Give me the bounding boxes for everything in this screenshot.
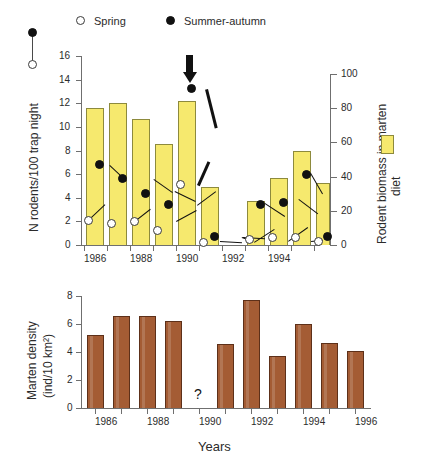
datapoint-spring [176, 180, 185, 189]
axis-ticklabel-x-bottom: 1996 [355, 417, 377, 427]
bar-marten-density [139, 316, 156, 408]
axis-tick [147, 409, 148, 414]
datapoint-spring [291, 233, 300, 242]
bar-marten-density [347, 351, 364, 408]
axis-tick [331, 177, 337, 178]
axis-tick [225, 409, 226, 414]
axis-tick [199, 246, 200, 251]
axis-tick [76, 408, 82, 409]
datapoint-summer-autumn [141, 189, 150, 198]
axis-tick [331, 142, 337, 143]
datapoint-summer-autumn [118, 174, 127, 183]
axis-tick [76, 198, 82, 199]
axis-tick [331, 245, 337, 246]
axis-ticklabel-y-right: 60 [341, 137, 352, 147]
axis-ticklabel-y-right: 40 [341, 172, 352, 182]
axis-tick [222, 246, 223, 251]
axis-ticklabel-y-left: 14 [59, 75, 70, 85]
bar-marten-density [243, 300, 260, 408]
bar-rodent-biomass [178, 101, 196, 245]
axis-ticklabel-y-bottom: 6 [67, 319, 73, 329]
axis-ticklabel-y-right: 100 [341, 69, 358, 79]
axis-ticklabel-x-top: 1992 [222, 254, 244, 264]
peak-arrow-icon [181, 55, 199, 84]
axis-tick [76, 174, 82, 175]
axis-tick [76, 103, 82, 104]
bar-marten-density [321, 343, 338, 408]
axis-ticklabel-y-right: 20 [341, 206, 352, 216]
axis-ticklabel-y-left: 4 [65, 193, 71, 203]
bar-marten-density [87, 335, 104, 409]
axis-tick [331, 74, 337, 75]
axis-line-bottom-bottom [81, 408, 371, 409]
axis-label-y-left-top: N rodents/100 trap night [28, 103, 40, 232]
axis-label-y-bottom-2: (ind/10 km²) [42, 334, 54, 398]
axis-ticklabel-y-left: 8 [65, 146, 71, 156]
axis-label-y-right-top-2: diet [390, 177, 402, 196]
axis-tick [76, 324, 82, 325]
bottom-panel: Marten density (ind/10 km²) ? 8 6 4 2 0 [0, 268, 424, 464]
series-segment [220, 241, 242, 243]
axis-ticklabel-y-bottom: 8 [67, 291, 73, 301]
axis-ticklabel-x-bottom: 1988 [147, 417, 169, 427]
axis-tick [76, 380, 82, 381]
datapoint-spring [130, 217, 139, 226]
datapoint-summer-autumn [302, 170, 311, 179]
axis-tick [329, 409, 330, 414]
datapoint-spring [245, 235, 254, 244]
axis-tick [153, 246, 154, 251]
axis-tick [121, 409, 122, 414]
datapoint-spring [153, 226, 162, 235]
axis-tick [95, 409, 96, 414]
axis-ticklabel-y-left: 10 [59, 122, 70, 132]
datapoint-spring [268, 233, 277, 242]
axis-ticklabel-y-bottom: 2 [67, 375, 73, 385]
axis-ticklabel-y-bottom: 0 [67, 403, 73, 413]
bar-marten-density [269, 356, 286, 408]
series-segment [205, 89, 218, 129]
axis-tick [314, 246, 315, 251]
axis-ticklabel-y-left: 16 [59, 51, 70, 61]
missing-data-marker: ? [194, 386, 202, 402]
axis-tick [107, 246, 108, 251]
axis-tick [331, 211, 337, 212]
series-segment [197, 162, 210, 187]
axis-tick [76, 127, 82, 128]
axis-ticklabel-x-top: 1994 [268, 254, 290, 264]
top-panel: N rodents/100 trap night [0, 0, 424, 268]
datapoint-spring [107, 219, 116, 228]
axis-ticklabel-x-bottom: 1994 [303, 417, 325, 427]
axis-ticklabel-y-left: 12 [59, 98, 70, 108]
axis-tick [331, 108, 337, 109]
axis-tick [245, 246, 246, 251]
axis-tick [76, 296, 82, 297]
axis-ticklabel-y-left: 6 [65, 169, 71, 179]
axis-tick [251, 409, 252, 414]
axis-tick [303, 409, 304, 414]
datapoint-summer-autumn [210, 232, 219, 241]
axis-ticklabel-x-top: 1988 [130, 254, 152, 264]
axis-ticklabel-x-bottom: 1990 [199, 417, 221, 427]
axis-tick [76, 245, 82, 246]
axis-label-y-right-top: Rodent biomass in marten [376, 104, 388, 244]
legend-swatch-rodent-biomass [381, 135, 394, 154]
bar-marten-density [113, 316, 130, 408]
axis-tick [76, 56, 82, 57]
datapoint-summer-autumn [164, 200, 173, 209]
axis-tick [291, 246, 292, 251]
axis-label-x-bottom: Years [198, 440, 231, 453]
axis-ticklabel-x-top: 1990 [176, 254, 198, 264]
axis-ticklabel-x-bottom: 1992 [251, 417, 273, 427]
datapoint-summer-autumn [323, 232, 332, 241]
datapoint-summer-autumn [256, 200, 265, 209]
figure-root: Spring Summer-autumn N rodents/100 trap … [0, 0, 424, 464]
axis-tick [176, 246, 177, 251]
axis-line-right-top [330, 74, 331, 246]
axis-ticklabel-y-right: 80 [341, 103, 352, 113]
axis-tick [84, 246, 85, 251]
datapoint-spring [314, 237, 323, 246]
axis-ticklabel-x-bottom: 1986 [95, 417, 117, 427]
axis-tick [76, 80, 82, 81]
bar-marten-density [295, 324, 312, 408]
axis-ticklabel-y-left: 2 [65, 216, 71, 226]
